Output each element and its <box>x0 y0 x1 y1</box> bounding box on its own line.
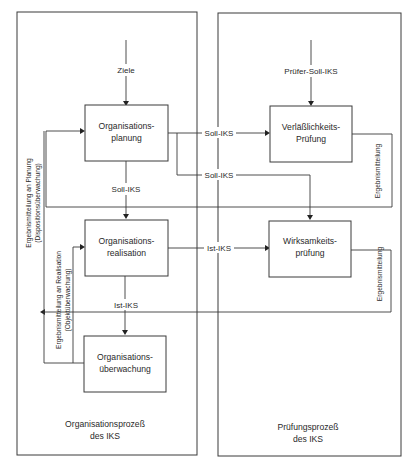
node-label: überwachung <box>99 364 151 374</box>
node-organisationsplanung: Organisations- planung <box>85 105 168 161</box>
node-label: realisation <box>107 248 146 258</box>
edge-label-ergebnis-verlaesslichkeit: Ergebnismitteilung <box>374 144 382 199</box>
container-subtitle-left: des IKS <box>90 431 120 441</box>
node-organisationsrealisation: Organisations- realisation <box>85 220 168 276</box>
container-title-left: Organisationsprozeß <box>65 419 145 429</box>
node-organisationsueberwachung: Organisations- überwachung <box>84 336 166 392</box>
node-label: Organisations- <box>99 121 155 131</box>
iks-process-diagram: Organisations- planung Organisations- re… <box>0 0 418 475</box>
node-wirksamkeitspruefung: Wirksamkeits- prüfung <box>269 221 351 277</box>
node-label: planung <box>111 133 142 143</box>
edge-label-ziele: Ziele <box>117 66 135 75</box>
edge-label-ist-iks-down: Ist-IKS <box>114 301 138 310</box>
node-label: Wirksamkeits- <box>283 236 337 246</box>
edge-label-ist-iks-wirksamkeit: Ist-IKS <box>207 244 231 253</box>
container-subtitle-right: des IKS <box>293 434 323 444</box>
edge-label-dispositionsueberwachung: (Dispositionsüberwachung) <box>34 163 42 243</box>
node-label: Prüfung <box>296 134 326 144</box>
node-label: Verläßlichkeits- <box>282 122 340 132</box>
edge-label-objektueberwachung: (Objektüberwachung) <box>64 268 72 331</box>
edge-label-soll-iks-wirksamkeit: Soll-IKS <box>205 171 234 180</box>
node-label: Organisations- <box>99 236 155 246</box>
edge-label-soll-iks-down: Soll-IKS <box>112 185 141 194</box>
edge-label-ergebnis-wirksamkeit: Ergebnismitteilung <box>376 247 384 302</box>
edge-ueberwachung-to-realisation <box>73 244 85 363</box>
node-label: prüfung <box>295 248 324 258</box>
edge-label-soll-iks-verlaesslichkeit: Soll-IKS <box>205 129 234 138</box>
edge-label-ergebnis-realisation: Ergebnismitteilung an Realisation <box>55 251 63 349</box>
node-label: Organisations- <box>97 352 153 362</box>
node-verlaesslichkeitspruefung: Verläßlichkeits- Prüfung <box>270 106 352 162</box>
container-title-right: Prüfungsprozeß <box>277 422 338 432</box>
edge-label-ergebnis-planung: Ergebnismitteilung an Planung <box>25 158 33 248</box>
edge-label-pruefer-soll-iks: Prüfer-Soll-IKS <box>284 67 337 76</box>
